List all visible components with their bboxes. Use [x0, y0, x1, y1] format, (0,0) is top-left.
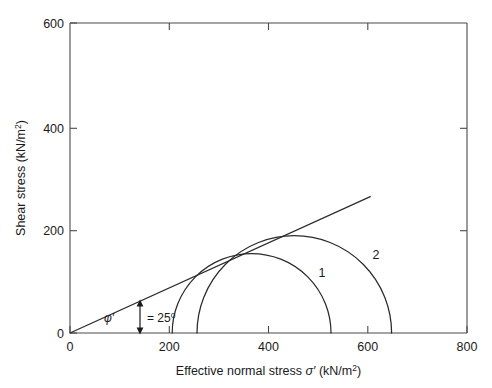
right-axis-ticks — [460, 128, 467, 230]
y-tick-label-0: 0 — [57, 327, 64, 341]
friction-angle-annotation: φ′ = 25o — [104, 300, 176, 335]
failure-envelope-line — [70, 197, 370, 333]
circle-2-label: 2 — [373, 248, 380, 262]
chart-canvas: 0 200 400 600 0 200 400 600 800 φ′ — [0, 0, 492, 388]
mohr-circle-1-arc — [172, 254, 331, 333]
phi-symbol-label: φ′ — [104, 311, 115, 325]
y-axis-ticks — [70, 23, 77, 333]
top-axis-ticks — [169, 23, 367, 30]
y-tick-label-200: 200 — [43, 224, 64, 238]
axes-frame — [70, 23, 467, 333]
x-tick-label-400: 400 — [258, 340, 279, 354]
x-tick-label-200: 200 — [159, 340, 180, 354]
x-axis-title: Effective normal stress σ′ (kN/m2) — [176, 363, 361, 378]
x-axis-ticks — [70, 326, 467, 333]
x-tick-label-600: 600 — [357, 340, 378, 354]
mohr-circle-figure: 0 200 400 600 0 200 400 600 800 φ′ — [0, 0, 492, 388]
x-tick-label-800: 800 — [457, 340, 478, 354]
y-tick-label-600: 600 — [43, 17, 64, 31]
x-tick-label-0: 0 — [67, 340, 74, 354]
y-axis-title: Shear stress (kN/m2) — [13, 120, 28, 236]
mohr-circle-2-arc — [197, 236, 392, 333]
y-tick-labels: 0 200 400 600 — [43, 17, 64, 341]
y-tick-label-400: 400 — [43, 122, 64, 136]
phi-value-label: = 25o — [147, 310, 176, 325]
x-tick-labels: 0 200 400 600 800 — [67, 340, 478, 354]
circle-1-label: 1 — [319, 266, 326, 280]
